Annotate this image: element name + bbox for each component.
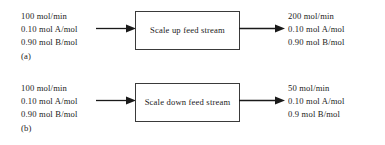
feed-composition-b-b: 0.90 mol B/mol [21,108,78,121]
product-composition-a-b: 0.10 mol A/mol [288,95,345,108]
process-diagram-a: 100 mol/min 0.10 mol A/mol 0.90 mol B/mo… [0,0,385,72]
feed-composition-a-b: 0.10 mol A/mol [21,95,78,108]
process-unit-box-a: Scale up feed stream [135,11,240,50]
process-unit-label-a: Scale up feed stream [146,25,229,37]
feed-stream-label-a: 100 mol/min 0.10 mol A/mol 0.90 mol B/mo… [21,10,78,49]
product-composition-b-a: 0.90 mol B/mol [288,36,345,49]
feed-composition-a-a: 0.10 mol A/mol [21,23,78,36]
product-arrow-icon-a [239,24,285,33]
feed-arrow-icon-a [96,24,136,33]
process-unit-box-b: Scale down feed stream [135,83,240,122]
feed-stream-label-b: 100 mol/min 0.10 mol A/mol 0.90 mol B/mo… [21,82,78,121]
product-composition-b-b: 0.9 mol B/mol [288,108,345,121]
product-stream-label-a: 200 mol/min 0.10 mol A/mol 0.90 mol B/mo… [288,10,345,49]
product-arrow-icon-b [239,96,285,105]
figure-caption-a: (a) [21,50,31,62]
product-stream-label-b: 50 mol/min 0.10 mol A/mol 0.9 mol B/mol [288,82,345,121]
feed-flow-rate-a: 100 mol/min [21,10,78,23]
product-composition-a-a: 0.10 mol A/mol [288,23,345,36]
feed-flow-rate-b: 100 mol/min [21,82,78,95]
process-unit-label-b: Scale down feed stream [141,97,235,109]
product-flow-rate-b: 50 mol/min [288,82,345,95]
feed-arrow-icon-b [96,96,136,105]
product-flow-rate-a: 200 mol/min [288,10,345,23]
process-diagram-b: 100 mol/min 0.10 mol A/mol 0.90 mol B/mo… [0,72,385,144]
figure-caption-b: (b) [21,122,32,134]
feed-composition-b-a: 0.90 mol B/mol [21,36,78,49]
